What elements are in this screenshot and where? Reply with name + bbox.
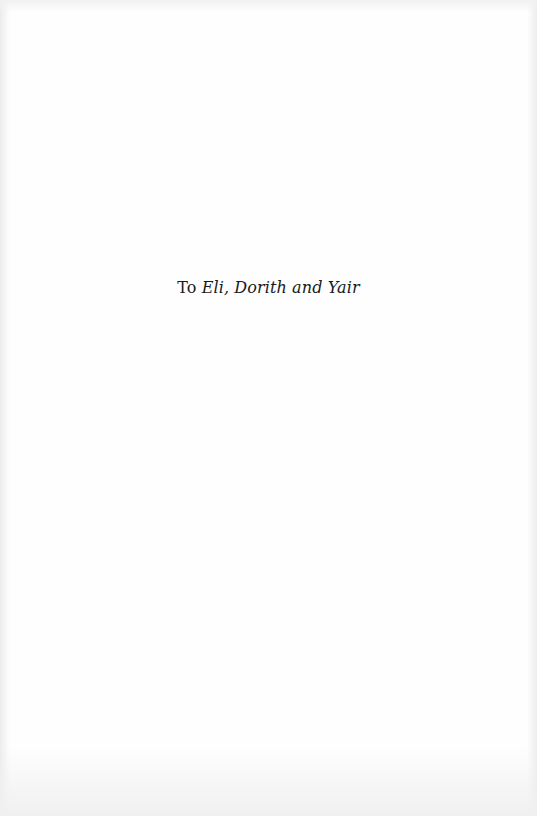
- dedication-names: Eli, Dorith and Yair: [202, 278, 360, 297]
- dedication-prefix: To: [177, 278, 196, 297]
- scan-edge-top: [0, 0, 537, 12]
- scan-edge-left: [0, 0, 10, 816]
- scan-edge-right: [527, 0, 537, 816]
- book-page: To Eli, Dorith and Yair: [0, 0, 537, 816]
- dedication-text: To Eli, Dorith and Yair: [0, 278, 537, 298]
- scan-edge-bottom: [0, 746, 537, 816]
